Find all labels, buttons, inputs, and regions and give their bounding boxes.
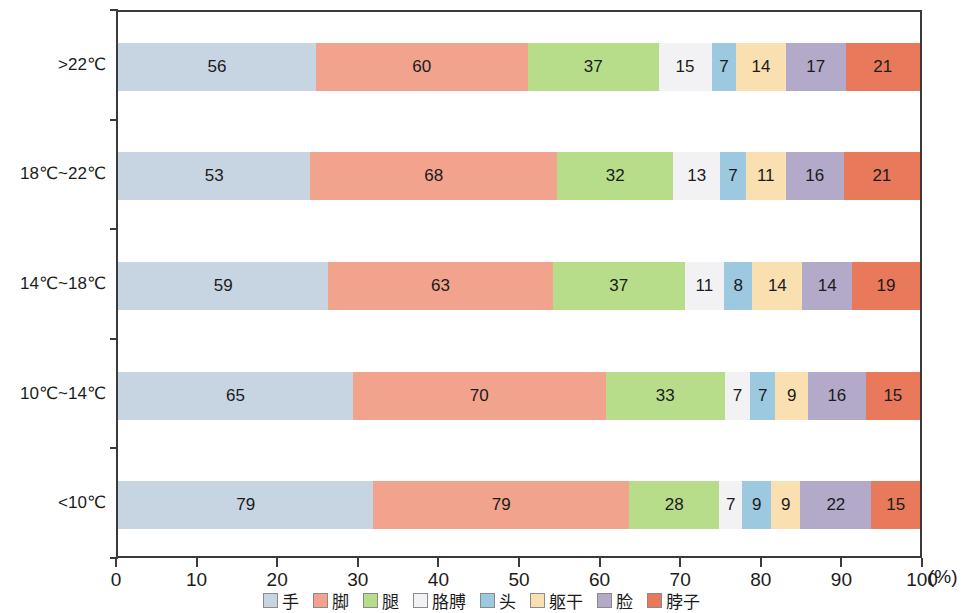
bar-segment: 22 [800,481,871,529]
bar-segment-value: 9 [752,495,761,515]
bar-segment-value: 68 [424,166,443,186]
x-axis-tick-mark [921,558,923,567]
bar-segment-value: 79 [236,495,255,515]
legend-swatch-icon [313,593,328,608]
x-axis-tick-mark [679,558,681,567]
bar-segment-value: 22 [826,495,845,515]
bar-segment-value: 9 [787,386,796,406]
legend-label: 腿 [382,588,399,613]
y-axis-tick-label: 14℃~18℃ [0,273,106,294]
bar-segment: 7 [725,372,750,420]
bar-segment-value: 7 [758,386,767,406]
bar-segment-value: 7 [733,386,742,406]
bar-segment: 14 [802,262,852,310]
stacked-bar: 6570337791615 [118,372,920,420]
legend-swatch-icon [530,593,545,608]
bar-segment: 28 [629,481,720,529]
bar-segment-value: 33 [656,386,675,406]
bar-segment-value: 65 [226,386,245,406]
legend-swatch-icon [263,593,278,608]
y-axis-tick-label: >22℃ [0,54,106,75]
stacked-bar: 596337118141419 [118,262,920,310]
bar-segment-value: 9 [781,495,790,515]
legend-item[interactable]: 胳膊 [413,588,466,613]
bar-segment: 21 [844,152,920,200]
bar-segment-value: 32 [606,166,625,186]
bar-segment: 17 [786,43,846,91]
legend-item[interactable]: 脸 [597,588,633,613]
x-axis-tick-mark [115,558,117,567]
legend-item[interactable]: 手 [263,588,299,613]
bar-segment: 33 [606,372,725,420]
bar-segment: 15 [659,43,712,91]
y-axis-tick-label: 10℃~14℃ [0,383,106,404]
bar-segment: 79 [373,481,628,529]
bar-segment-value: 70 [470,386,489,406]
bar-segment-value: 16 [805,166,824,186]
x-axis-unit-label: (%) [928,566,958,588]
bar-segment-value: 53 [205,166,224,186]
legend-label: 胳膊 [432,588,466,613]
bar-segment-value: 28 [665,495,684,515]
bar-segment: 7 [750,372,775,420]
y-axis-tick-label: <10℃ [0,492,106,513]
legend-label: 头 [499,588,516,613]
x-axis-tick-mark [357,558,359,567]
legend-item[interactable]: 脖子 [647,588,700,613]
bar-segment-value: 37 [584,57,603,77]
bar-segment-value: 16 [827,386,846,406]
legend-item[interactable]: 腿 [363,588,399,613]
bar-segment-value: 21 [873,57,892,77]
legend-label: 手 [282,588,299,613]
bar-segment: 11 [685,262,724,310]
bar-row: 7979287992215 [118,450,920,560]
bar-segment-value: 7 [726,495,735,515]
bar-segment-value: 11 [757,166,775,186]
bar-segment-value: 60 [412,57,431,77]
x-axis-tick-mark [196,558,198,567]
y-axis-tick-label: 18℃~22℃ [0,163,106,184]
bar-segment: 37 [553,262,685,310]
legend-label: 脖子 [666,588,700,613]
bar-segment-value: 79 [492,495,511,515]
legend-label: 躯干 [549,588,583,613]
bar-segment-value: 15 [883,386,902,406]
bar-segment-value: 21 [872,166,891,186]
stacked-bar-chart: >22℃18℃~22℃14℃~18℃10℃~14℃<10℃ 5660371571… [0,0,962,613]
bar-segment-value: 7 [719,57,728,77]
bar-segment: 56 [118,43,316,91]
bar-segment-value: 15 [886,495,905,515]
legend-item[interactable]: 头 [480,588,516,613]
x-axis-tick-mark [518,558,520,567]
legend-swatch-icon [413,593,428,608]
bar-segment-value: 13 [687,166,706,186]
legend-item[interactable]: 脚 [313,588,349,613]
bar-segment-value: 8 [733,276,742,296]
bar-segment: 9 [771,481,800,529]
bar-segment: 7 [720,152,745,200]
legend-label: 脸 [616,588,633,613]
bar-segment: 14 [736,43,785,91]
bar-segment: 13 [673,152,720,200]
bar-row: 536832137111621 [118,122,920,232]
bar-row: 596337118141419 [118,231,920,341]
x-axis-tick-mark [437,558,439,567]
legend-swatch-icon [647,593,662,608]
bar-segment: 15 [866,372,920,420]
bar-segment: 9 [742,481,771,529]
bar-segment: 19 [852,262,920,310]
bar-segment: 7 [719,481,742,529]
bar-segment: 37 [528,43,659,91]
bar-segment: 70 [353,372,606,420]
bar-segment: 59 [118,262,328,310]
bar-segment-value: 19 [877,276,896,296]
stacked-bar: 566037157141721 [118,43,920,91]
bar-row: 6570337791615 [118,341,920,451]
plot-area: 5660371571417215368321371116215963371181… [116,10,922,558]
bar-segment: 14 [752,262,802,310]
bar-segment-value: 17 [806,57,825,77]
legend-item[interactable]: 躯干 [530,588,583,613]
stacked-bar: 536832137111621 [118,152,920,200]
x-axis: 0102030405060708090100 [116,558,922,560]
bar-segment: 15 [871,481,920,529]
